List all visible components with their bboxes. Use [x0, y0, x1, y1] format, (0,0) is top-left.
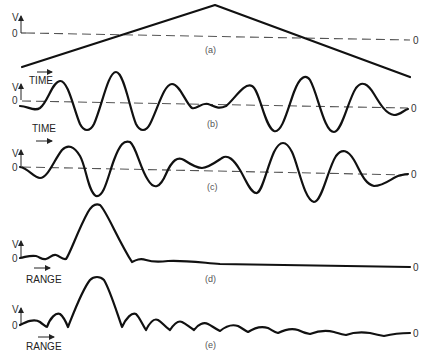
- zero-label-right: 0: [411, 169, 417, 180]
- y-axis-label: V: [12, 304, 19, 315]
- zero-label-right: 0: [413, 35, 419, 46]
- time-label: TIME: [32, 123, 56, 134]
- panel-c: TIME V 0 0 (c): [12, 123, 417, 202]
- caption-b: (b): [207, 119, 218, 129]
- panel-b: TIME V 0 0 (b): [12, 72, 417, 132]
- caption-a: (a): [205, 45, 216, 55]
- zero-line: [22, 167, 408, 175]
- waveform-c: [20, 142, 408, 202]
- zero-line: [26, 33, 410, 40]
- panel-e: V 0 0 RANGE (e): [12, 277, 419, 352]
- range-label: RANGE: [26, 274, 62, 285]
- range-label: RANGE: [26, 341, 62, 352]
- caption-d: (d): [205, 274, 216, 284]
- time-label: TIME: [29, 75, 53, 86]
- panel-d: V 0 0 RANGE (d): [12, 204, 419, 285]
- zero-label-right: 0: [413, 328, 419, 339]
- zero-label-left: 0: [12, 320, 18, 331]
- y-axis-label: V: [12, 12, 19, 23]
- zero-label-left: 0: [12, 95, 18, 106]
- caption-e: (e): [205, 340, 216, 350]
- range-response-d: [20, 204, 410, 267]
- zero-label-left: 0: [12, 28, 18, 39]
- range-response-e: [20, 277, 410, 336]
- y-axis-label: V: [12, 239, 19, 250]
- y-axis-label: V: [12, 82, 19, 93]
- panel-a: V 0 0 (a): [12, 5, 419, 77]
- figure-canvas: V 0 0 (a) TIME V 0 0 (b) TIME V 0 0 (c) …: [0, 0, 423, 362]
- zero-label-left: 0: [12, 162, 18, 173]
- zero-label-left: 0: [12, 253, 18, 264]
- caption-c: (c): [207, 182, 218, 192]
- y-axis-label: V: [12, 148, 19, 159]
- zero-label-right: 0: [411, 103, 417, 114]
- zero-label-right: 0: [413, 262, 419, 273]
- triangle-waveform: [22, 5, 410, 77]
